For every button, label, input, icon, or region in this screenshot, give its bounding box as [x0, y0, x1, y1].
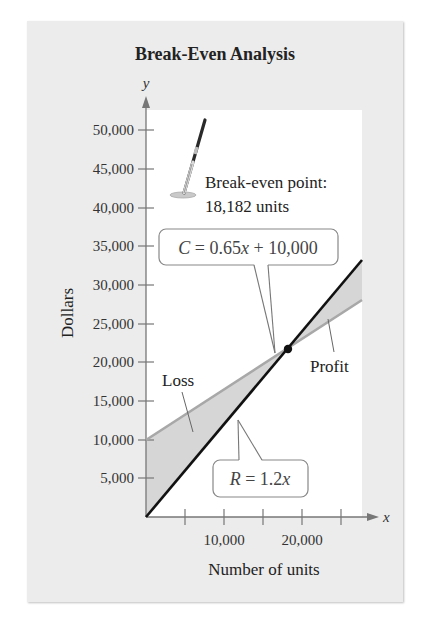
revenue-equation: R = 1.2x [229, 469, 291, 489]
y-tick-label: 50,000 [93, 122, 134, 138]
x-axis-arrow-icon [367, 513, 379, 521]
y-tick-label: 30,000 [93, 277, 134, 293]
y-axis-variable: y [141, 75, 150, 91]
break-even-point [284, 345, 292, 353]
x-axis-variable: x [382, 509, 390, 525]
break-even-label: Break-even point: [205, 173, 327, 192]
y-tick-label: 5,000 [100, 470, 134, 486]
y-tick-label: 35,000 [93, 238, 134, 254]
y-tick-label: 25,000 [93, 316, 134, 332]
profit-label: Profit [310, 357, 349, 376]
x-tick-label: 10,000 [203, 532, 244, 548]
y-tick-label: 40,000 [93, 200, 134, 216]
y-axis-title: Dollars [58, 288, 77, 338]
break-even-units: 18,182 units [205, 197, 289, 216]
cost-equation: C = 0.65x + 10,000 [178, 238, 317, 258]
loss-label: Loss [162, 371, 194, 390]
x-tick-label: 20,000 [281, 532, 322, 548]
y-tick-label: 45,000 [93, 161, 134, 177]
chart-svg: 5,000 10,000 15,000 20,000 25,000 30,000… [0, 0, 424, 630]
y-tick-labels: 5,000 10,000 15,000 20,000 25,000 30,000… [93, 122, 134, 486]
y-tick-label: 10,000 [93, 432, 134, 448]
x-axis-title: Number of units [208, 560, 319, 579]
y-tick-label: 15,000 [93, 393, 134, 409]
y-tick-label: 20,000 [93, 354, 134, 370]
x-tick-labels: 10,000 20,000 [203, 532, 322, 548]
y-axis-arrow-icon [142, 96, 150, 108]
